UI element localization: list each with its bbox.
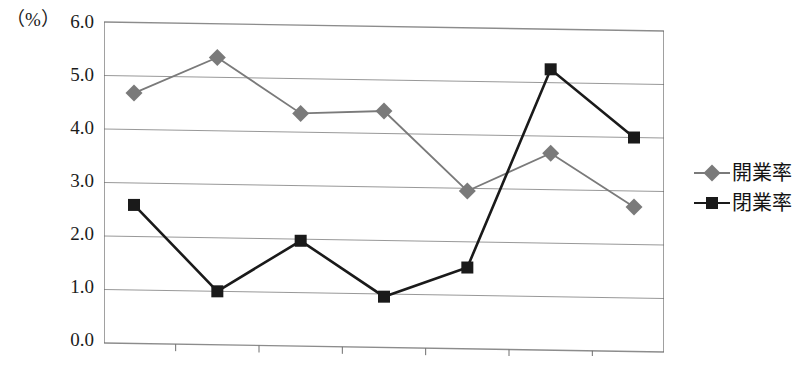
square-marker-icon (706, 197, 718, 209)
data-point-marker[interactable] (378, 291, 390, 303)
data-point-marker[interactable] (209, 49, 226, 66)
chart-container: （%） 6.0 5.0 4.0 3.0 2.0 1.0 0.0 開業率 (0, 0, 805, 365)
data-point-marker[interactable] (545, 63, 557, 75)
legend-label-close-rate: 閉業率 (730, 193, 792, 213)
y-tick-label-3: 3.0 (48, 170, 94, 192)
data-point-marker[interactable] (626, 199, 643, 216)
y-tick-label-4: 4.0 (48, 117, 94, 139)
legend-symbol-open-rate (694, 163, 730, 183)
gridline (104, 183, 664, 192)
diamond-marker-icon (704, 165, 721, 182)
plot-area (104, 16, 664, 348)
gridline (104, 22, 664, 31)
series-layer (126, 49, 643, 303)
gridline (104, 343, 664, 352)
data-point-marker[interactable] (292, 105, 309, 122)
data-point-marker[interactable] (542, 145, 559, 162)
y-tick-label-0: 0.0 (48, 329, 94, 351)
y-tick-label-1: 1.0 (48, 276, 94, 298)
data-point-marker[interactable] (211, 285, 223, 297)
y-tick-label-2: 2.0 (48, 223, 94, 245)
gridline (104, 129, 664, 138)
data-point-marker[interactable] (461, 262, 473, 274)
data-point-marker[interactable] (128, 199, 140, 211)
gridline (104, 76, 664, 85)
chart-plot-svg (104, 16, 664, 356)
y-tick-label-6: 6.0 (48, 11, 94, 33)
gridline (104, 236, 664, 245)
legend-item-close-rate[interactable]: 閉業率 (694, 188, 802, 218)
data-point-marker[interactable] (628, 132, 640, 144)
chart-legend: 開業率 閉業率 (694, 158, 802, 218)
y-tick-label-5: 5.0 (48, 64, 94, 86)
data-point-marker[interactable] (126, 85, 143, 102)
legend-label-open-rate: 開業率 (730, 163, 792, 183)
data-point-marker[interactable] (295, 235, 307, 247)
legend-symbol-close-rate (694, 193, 730, 213)
legend-item-open-rate[interactable]: 開業率 (694, 158, 802, 188)
y-axis-tick-labels: 6.0 5.0 4.0 3.0 2.0 1.0 0.0 (48, 0, 94, 365)
